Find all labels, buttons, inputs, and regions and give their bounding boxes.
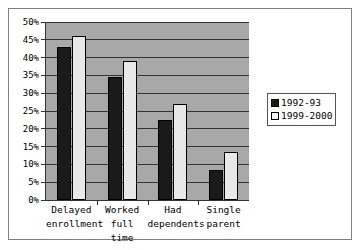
x-axis-labels: Delayed enrollmentWorked full timeHad de… — [46, 203, 249, 249]
y-axis-tick-label: 15% — [23, 142, 39, 151]
x-axis-category-label: Had dependents — [148, 203, 199, 231]
y-axis-tick-label: 25% — [23, 107, 39, 116]
y-axis-tick-label: 30% — [23, 89, 39, 98]
bar — [57, 47, 71, 200]
y-axis-tick-label: 10% — [23, 160, 39, 169]
y-axis-tick — [41, 128, 46, 129]
y-axis-tick — [41, 93, 46, 94]
bar — [158, 120, 172, 200]
legend-swatch-1992-93 — [271, 99, 279, 107]
x-axis-category-label: Worked full time — [97, 203, 148, 245]
chart-legend: 1992-93 1999-2000 — [267, 93, 336, 126]
y-axis-tick-label: 50% — [23, 18, 39, 27]
gridline — [46, 22, 249, 23]
y-axis-tick — [41, 182, 46, 183]
y-axis-tick-label: 5% — [28, 178, 39, 187]
bar — [173, 104, 187, 200]
legend-item: 1999-2000 — [271, 109, 332, 122]
y-axis-tick-label: 40% — [23, 53, 39, 62]
y-axis-tick — [41, 200, 46, 201]
y-axis-tick — [41, 146, 46, 147]
chart-figure: 0%5%10%15%20%25%30%35%40%45%50% Delayed … — [0, 0, 361, 250]
legend-label-1999-2000: 1999-2000 — [281, 110, 332, 121]
y-axis-tick — [41, 57, 46, 58]
y-axis-tick-label: 45% — [23, 35, 39, 44]
plot-area: 0%5%10%15%20%25%30%35%40%45%50% — [45, 22, 249, 201]
y-axis-tick — [41, 75, 46, 76]
x-axis-category-label: Single parent — [198, 203, 249, 231]
bar — [224, 152, 238, 200]
legend-label-1992-93: 1992-93 — [281, 97, 321, 108]
y-axis-tick — [41, 22, 46, 23]
bar — [108, 77, 122, 200]
legend-swatch-1999-2000 — [271, 112, 279, 120]
y-axis-tick — [41, 164, 46, 165]
y-axis-tick-label: 35% — [23, 71, 39, 80]
bar — [123, 61, 137, 200]
y-axis-tick-label: 20% — [23, 124, 39, 133]
y-axis-tick — [41, 111, 46, 112]
x-axis-category-label: Delayed enrollment — [46, 203, 97, 231]
y-axis-tick-label: 0% — [28, 196, 39, 205]
legend-item: 1992-93 — [271, 96, 332, 109]
bar — [72, 36, 86, 200]
bar — [209, 170, 223, 200]
y-axis-tick — [41, 39, 46, 40]
